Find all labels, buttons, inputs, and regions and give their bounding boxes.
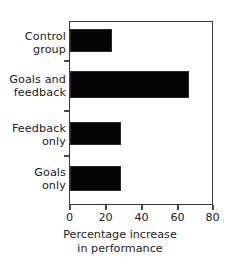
x-axis-tick-label-80: 80 xyxy=(198,211,228,224)
category-label-line: only xyxy=(0,179,66,192)
x-axis-title-line1: Percentage increase xyxy=(0,228,240,242)
x-axis-tick-20 xyxy=(105,205,107,210)
x-axis-tick-label-40: 40 xyxy=(127,211,157,224)
bar-goals-only xyxy=(70,166,121,191)
y-axis-tick xyxy=(64,110,69,112)
category-label-goals-only: Goals only xyxy=(0,166,66,192)
category-label-control-group: Control group xyxy=(0,30,66,56)
x-axis-tick-40 xyxy=(141,205,143,210)
y-axis-tick xyxy=(64,60,69,62)
bar-control-group xyxy=(70,29,112,52)
category-label-feedback-only: Feedback only xyxy=(0,122,66,148)
bar-goals-and-feedback xyxy=(70,71,189,98)
x-axis-tick-label-60: 60 xyxy=(163,211,193,224)
category-label-line: only xyxy=(0,135,66,148)
bar-chart: Control group Goals and feedback Feedbac… xyxy=(0,0,240,266)
x-axis-title: Percentage increase in performance xyxy=(0,228,240,256)
category-label-line: Control xyxy=(0,30,66,43)
category-label-line: group xyxy=(0,43,66,56)
plot-area xyxy=(69,21,213,205)
x-axis-tick-0 xyxy=(69,205,71,210)
x-axis-title-line2: in performance xyxy=(0,242,240,256)
category-label-line: Goals and xyxy=(0,73,66,86)
bar-feedback-only xyxy=(70,122,121,145)
y-axis-tick xyxy=(64,155,69,157)
category-label-line: Feedback xyxy=(0,122,66,135)
category-label-line: feedback xyxy=(0,86,66,99)
x-axis-tick-60 xyxy=(177,205,179,210)
x-axis-tick-80 xyxy=(212,205,214,210)
category-label-goals-and-feedback: Goals and feedback xyxy=(0,73,66,99)
category-label-line: Goals xyxy=(0,166,66,179)
x-axis-tick-label-20: 20 xyxy=(91,211,121,224)
x-axis-tick-label-0: 0 xyxy=(55,211,85,224)
